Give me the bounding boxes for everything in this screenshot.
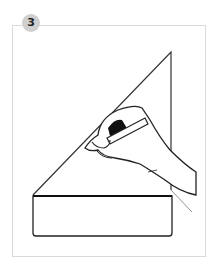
drawing-illustration <box>0 0 219 269</box>
step-number-badge: 3 <box>22 14 40 32</box>
rectangle-base <box>33 196 172 236</box>
hand-outline <box>85 106 196 195</box>
